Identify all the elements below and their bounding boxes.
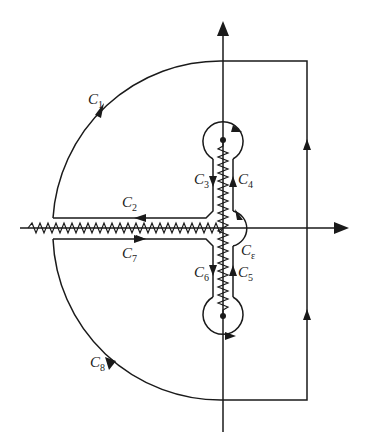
upper-branch-point [220,137,226,143]
c4-arrow-icon [229,176,237,187]
contour-right-segment [223,61,307,400]
label-c7: C7 [122,246,137,264]
up-arrow-icon [303,139,311,150]
c3-arrow-icon [209,176,217,187]
imaginary-axis-arrow-icon [217,21,229,36]
contour-c1-arc [53,61,223,218]
label-c4: C4 [238,172,253,190]
lower-branch-point [220,313,226,319]
label-c5: C5 [238,265,253,283]
label-c6: C6 [194,265,209,283]
real-axis-arrow-icon [334,222,349,234]
c6-arrow-icon [209,265,217,276]
c-epsilon-arrow-icon [235,209,243,220]
contour-diagram: C1 C2 C3 C4 Cε C7 C6 C5 C8 [0,0,365,446]
label-c1: C1 [88,92,103,110]
c2-arrow-icon [134,214,146,222]
label-c-epsilon: Cε [241,243,255,261]
c5-arrow-icon [229,265,237,276]
label-c2: C2 [122,195,137,213]
up-arrow-icon [303,309,311,320]
label-c3: C3 [194,172,209,190]
label-c8: C8 [90,355,105,373]
contour-drawing [0,0,365,446]
